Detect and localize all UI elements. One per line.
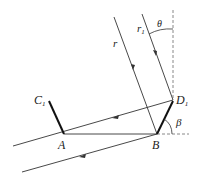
ray-r (114, 17, 157, 134)
theta-arc (149, 29, 173, 34)
reflected-ray-B (22, 134, 157, 172)
label-r: r (113, 37, 118, 49)
label-C1: C1 (34, 93, 46, 108)
label-r1: r1 (137, 22, 145, 36)
label-A: A (57, 138, 66, 152)
beta-arc (164, 119, 172, 134)
mirror-BD1 (157, 101, 173, 134)
label-beta: β (175, 116, 182, 128)
mirror-C1A (49, 101, 64, 134)
optics-diagram: r r1 θ β C1 D1 A B (0, 0, 200, 181)
ray-r-arrow (131, 64, 135, 70)
label-D1: D1 (175, 93, 188, 108)
label-B: B (152, 138, 160, 152)
label-theta: θ (157, 18, 162, 29)
